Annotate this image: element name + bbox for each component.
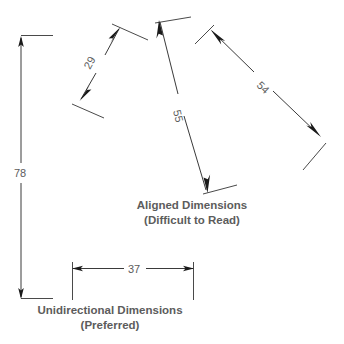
arrowhead-54-lower [306,122,321,137]
caption-aligned-subtitle: (Difficult to Read) [104,213,280,228]
dimension-value-54: 54 [255,79,272,96]
dimension-value-55: 55 [171,109,186,124]
dimension-line-55-upper [160,22,178,94]
caption-aligned-title: Aligned Dimensions [137,199,248,211]
dimension-value-37: 37 [128,263,140,275]
extension-line-54-upper [195,25,214,44]
dimension-37: 37 [72,262,194,300]
dimension-value-78: 78 [14,167,26,179]
extension-line-29-lower [72,104,104,118]
caption-aligned-dimensions: Aligned Dimensions (Difficult to Read) [104,198,280,228]
dimension-line-29-lower [81,73,96,99]
dimension-29: 29 [72,24,148,118]
arrowhead-29-lower [80,85,92,101]
dimension-diagram: 78 37 [0,0,344,344]
drawing-canvas: 78 37 [0,0,344,344]
dimension-78: 78 [14,36,53,300]
dimension-line-29-upper [105,29,119,55]
arrowhead-29-upper [109,27,121,43]
caption-unidirectional-title: Unidirectional Dimensions [37,304,182,316]
dimension-line-55-lower [184,116,206,190]
caption-unidirectional-dimensions: Unidirectional Dimensions (Preferred) [0,303,220,333]
extension-line-54-lower [303,143,326,170]
dimension-54: 54 [195,25,326,170]
dimension-value-29: 29 [81,54,97,70]
caption-unidirectional-subtitle: (Preferred) [0,318,220,333]
